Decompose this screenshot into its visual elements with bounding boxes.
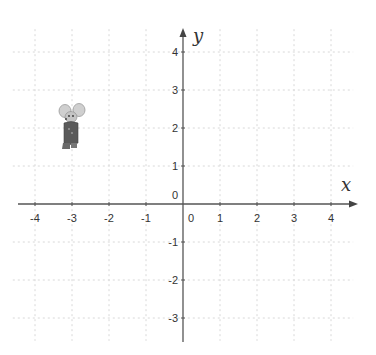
y-tick-label: -2	[168, 274, 178, 286]
y-tick-label: 3	[172, 84, 178, 96]
x-tick-label: -4	[30, 212, 40, 224]
x-tick-label: 4	[328, 212, 334, 224]
x-tick-label: 1	[217, 212, 223, 224]
x-axis-label: x	[341, 174, 351, 195]
y-tick-label: 1	[172, 160, 178, 172]
coordinate-plane: -4-3-2-101234-3-2-101234 x y	[0, 0, 376, 355]
y-axis-label: y	[192, 25, 204, 46]
x-axis-arrow-icon	[349, 201, 358, 208]
y-tick-label: 4	[172, 46, 178, 58]
axes	[18, 28, 358, 342]
x-tick-label: 2	[254, 212, 260, 224]
x-tick-label: -3	[67, 212, 77, 224]
x-tick-label: 3	[291, 212, 297, 224]
y-tick-label: 0	[172, 189, 178, 201]
y-tick-label: -3	[168, 312, 178, 324]
y-tick-label: -1	[168, 236, 178, 248]
x-tick-label: 0	[188, 212, 194, 224]
y-axis-arrow-icon	[180, 28, 187, 37]
tick-labels: -4-3-2-101234-3-2-101234	[30, 46, 334, 324]
x-tick-label: -2	[104, 212, 114, 224]
x-tick-label: -1	[141, 212, 151, 224]
y-tick-label: 2	[172, 122, 178, 134]
